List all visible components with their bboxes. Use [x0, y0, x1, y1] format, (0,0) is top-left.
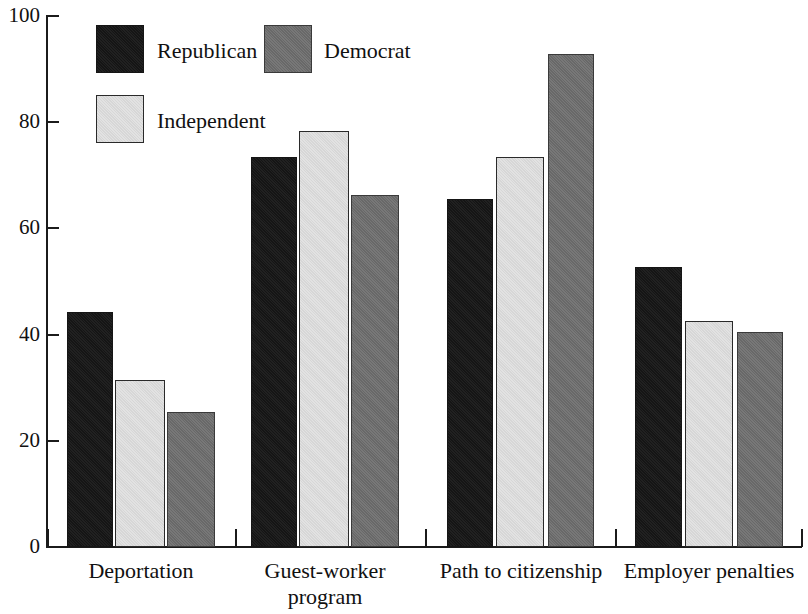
- bar-democrat: [167, 412, 215, 547]
- legend-label-democrat: Democrat: [324, 40, 411, 62]
- legend-swatch-independent: [96, 95, 144, 143]
- category-label-line: Path to citizenship: [411, 558, 631, 584]
- bar-independent: [496, 157, 544, 547]
- bar-republican: [67, 312, 113, 547]
- legend-swatch-republican: [96, 25, 144, 73]
- category-label-line: program: [215, 584, 435, 610]
- bars-layer: [0, 0, 808, 614]
- bar-independent: [685, 321, 733, 547]
- bar-independent: [299, 131, 349, 547]
- category-label: Employer penalties: [599, 558, 808, 584]
- bar-republican: [447, 199, 493, 547]
- bar-independent: [115, 380, 165, 547]
- bar-chart: 020406080100 DeportationGuest-workerprog…: [0, 0, 808, 614]
- category-label: Path to citizenship: [411, 558, 631, 584]
- legend-label-independent: Independent: [157, 110, 266, 132]
- category-label-line: Employer penalties: [599, 558, 808, 584]
- bar-democrat: [351, 195, 399, 547]
- legend-swatch-democrat: [264, 25, 312, 73]
- legend-label-republican: Republican: [157, 40, 257, 62]
- bar-republican: [251, 157, 297, 547]
- bar-democrat: [548, 54, 594, 547]
- category-label-line: Guest-worker: [215, 558, 435, 584]
- bar-democrat: [737, 332, 783, 547]
- category-label: Guest-workerprogram: [215, 558, 435, 610]
- bar-republican: [635, 267, 682, 547]
